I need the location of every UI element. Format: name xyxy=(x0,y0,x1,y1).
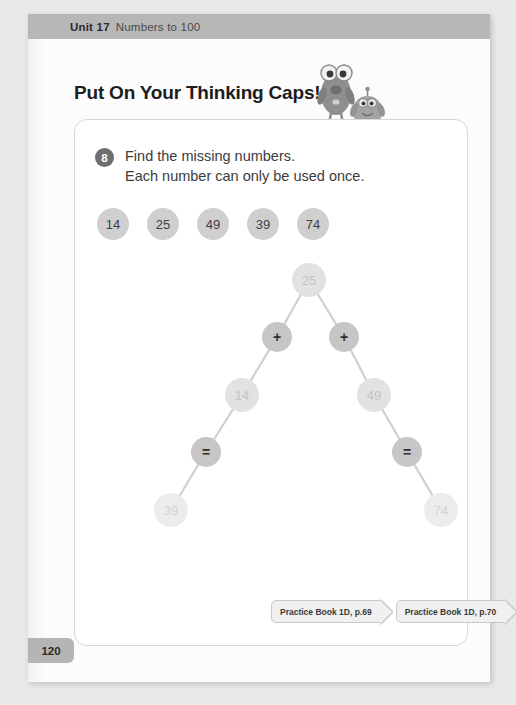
instruction-line-1: Find the missing numbers. xyxy=(125,146,364,166)
tree-edges-svg xyxy=(75,120,469,647)
practice-book-tag-row: Practice Book 1D, p.69Practice Book 1D, … xyxy=(271,600,505,623)
question-number-badge: 8 xyxy=(95,148,114,167)
question-block: 8 Find the missing numbers. Each number … xyxy=(95,146,364,186)
number-tree: 25++1449==3974 xyxy=(75,120,469,647)
tree-value-node[interactable]: 25 xyxy=(292,263,326,297)
exercise-card: 8 Find the missing numbers. Each number … xyxy=(74,119,468,646)
unit-label: Unit 17 xyxy=(70,21,110,33)
tree-value-node[interactable]: 49 xyxy=(357,378,391,412)
page-surface: Unit 17 Numbers to 100 Put On Your Think… xyxy=(28,14,490,682)
practice-book-tag[interactable]: Practice Book 1D, p.70 xyxy=(396,600,506,623)
number-chip[interactable]: 25 xyxy=(147,208,179,240)
page-title: Put On Your Thinking Caps! xyxy=(74,82,320,104)
number-chip[interactable]: 74 xyxy=(297,208,329,240)
tree-operator-node[interactable]: + xyxy=(329,322,359,352)
textbook-page: Unit 17 Numbers to 100 Put On Your Think… xyxy=(28,14,490,682)
question-instructions: Find the missing numbers. Each number ca… xyxy=(125,146,364,186)
number-chip[interactable]: 39 xyxy=(247,208,279,240)
tree-value-node[interactable]: 39 xyxy=(154,493,188,527)
tree-operator-node[interactable]: + xyxy=(262,322,292,352)
tree-value-node[interactable]: 14 xyxy=(225,378,259,412)
instruction-line-2: Each number can only be used once. xyxy=(125,166,364,186)
practice-book-tag[interactable]: Practice Book 1D, p.69 xyxy=(271,600,381,623)
page-number-tab: 120 xyxy=(28,638,74,663)
number-chip-row: 1425493974 xyxy=(97,208,329,240)
unit-header-bar: Unit 17 Numbers to 100 xyxy=(28,14,490,39)
tree-value-node[interactable]: 74 xyxy=(424,493,458,527)
tree-operator-node[interactable]: = xyxy=(191,437,221,467)
tree-operator-node[interactable]: = xyxy=(392,437,422,467)
number-chip[interactable]: 49 xyxy=(197,208,229,240)
unit-title: Numbers to 100 xyxy=(116,21,201,33)
number-chip[interactable]: 14 xyxy=(97,208,129,240)
